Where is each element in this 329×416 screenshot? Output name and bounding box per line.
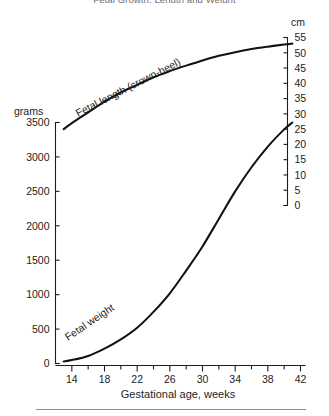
right-axis-tick-label: 45 [295, 62, 307, 74]
x-axis: 1418222630343842 [56, 366, 307, 386]
x-axis-tick-label: 34 [229, 373, 241, 385]
right-axis-tick-label: 20 [295, 138, 307, 150]
right-axis-tick-label: 5 [295, 184, 301, 196]
left-axis-tick-label: 500 [32, 323, 50, 335]
x-axis-tick-label: 26 [164, 373, 176, 385]
left-axis: 0500100015002000250030003500 [26, 116, 59, 369]
left-axis-tick-label: 2500 [26, 185, 50, 197]
right-axis-tick-label: 10 [295, 169, 307, 181]
curve-fetal-length-crown-heel [64, 44, 293, 130]
curve-fetal-weight [64, 123, 293, 362]
fetal-growth-chart: 0500100015002000250030003500 05101520253… [0, 0, 329, 416]
right-axis-tick-label: 30 [295, 108, 307, 120]
x-axis-tick-label: 30 [197, 373, 209, 385]
left-axis-tick-label: 1500 [26, 254, 50, 266]
right-axis-unit-label: cm [291, 16, 305, 28]
left-axis-tick-label: 0 [44, 357, 50, 369]
left-axis-tick-label: 2000 [26, 220, 50, 232]
right-axis-tick-label: 0 [295, 199, 301, 211]
right-axis-tick-label: 35 [295, 92, 307, 104]
right-axis-tick-label: 55 [295, 31, 307, 43]
left-axis-tick-label: 3500 [26, 116, 50, 128]
series-label-fetal-weight: Fetal weight [62, 301, 116, 343]
right-axis-tick-label: 50 [295, 47, 307, 59]
left-axis-unit-label: grams [14, 105, 43, 117]
left-axis-tick-label: 3000 [26, 151, 50, 163]
fetal-growth-figure: Fetal Growth: Length and Weight 05001000… [0, 0, 329, 416]
right-axis-tick-label: 25 [295, 123, 307, 135]
x-axis-tick-label: 42 [295, 373, 307, 385]
left-axis-line [56, 123, 60, 364]
right-axis-tick-label: 15 [295, 153, 307, 165]
right-axis-tick-label: 40 [295, 77, 307, 89]
x-axis-title: Gestational age, weeks [121, 388, 236, 400]
series-label-fetal-length: Fetal length (crown-heel) [73, 55, 182, 118]
x-axis-tick-label: 14 [66, 373, 78, 385]
x-axis-tick-label: 22 [131, 373, 143, 385]
x-axis-tick-label: 18 [99, 373, 111, 385]
left-axis-tick-label: 1000 [26, 288, 50, 300]
right-axis: 0510152025303540455055 [284, 31, 307, 211]
right-axis-line [284, 38, 288, 206]
x-axis-tick-label: 38 [262, 373, 274, 385]
